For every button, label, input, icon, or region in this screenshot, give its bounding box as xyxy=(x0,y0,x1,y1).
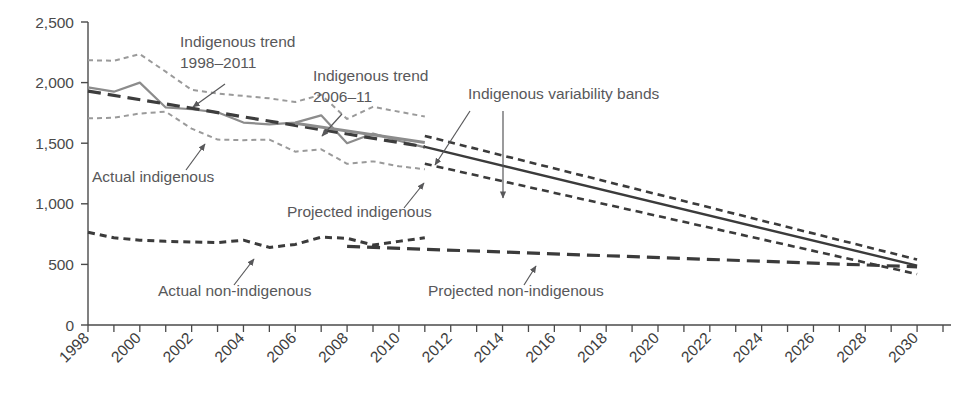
ann-indigenous-variability-bands: Indigenous variability bands xyxy=(468,85,660,102)
x-axis-tick-label: 2004 xyxy=(211,329,248,366)
annotation-label: Indigenous variability bands xyxy=(468,85,660,102)
chart-container: 05001,0001,5002,0002,500 199820002002200… xyxy=(0,0,959,406)
x-axis-ticks xyxy=(88,325,943,332)
ann-projected-indigenous: Projected indigenous xyxy=(287,203,432,220)
x-axis-tick-label: 2022 xyxy=(678,329,714,365)
series-line xyxy=(347,246,917,266)
y-axis-tick-label: 500 xyxy=(48,256,74,273)
annotation-layer: Indigenous trend1998–2011Indigenous tren… xyxy=(92,33,660,299)
x-axis-tick-label: 2000 xyxy=(108,329,145,366)
x-axis-tick-label: 2028 xyxy=(833,329,869,365)
x-axis-tick-label: 2014 xyxy=(470,329,507,366)
ann-indigenous-trend-2006-11: Indigenous trend2006–11 xyxy=(313,67,428,105)
y-axis-tick-labels: 05001,0001,5002,0002,500 xyxy=(35,14,74,334)
y-axis-tick-label: 1,500 xyxy=(35,135,74,152)
y-axis-tick-label: 2,500 xyxy=(35,14,74,31)
x-axis-tick-label: 2030 xyxy=(885,329,922,366)
x-axis-tick-label: 2002 xyxy=(159,329,195,365)
y-axis-tick-label: 1,000 xyxy=(35,195,74,212)
x-axis-tick-label: 2006 xyxy=(263,329,299,365)
x-axis-tick-label: 2016 xyxy=(522,329,558,365)
series-line xyxy=(88,91,425,147)
x-axis-tick-label: 2010 xyxy=(367,329,404,366)
ann-actual-indigenous: Actual indigenous xyxy=(92,168,215,185)
x-axis-tick-label: 2026 xyxy=(781,329,817,365)
annotation-label: Projected non-indigenous xyxy=(428,282,604,299)
annotation-label: Indigenous trend xyxy=(180,33,295,50)
annotation-label: Projected indigenous xyxy=(287,203,432,220)
x-axis-tick-label: 2008 xyxy=(315,329,351,365)
x-axis-tick-label: 2024 xyxy=(729,329,766,366)
y-axis-tick-label: 2,000 xyxy=(35,74,74,91)
line-chart: 05001,0001,5002,0002,500 199820002002200… xyxy=(0,0,959,406)
x-axis-tick-label: 2012 xyxy=(418,329,454,365)
annotation-label: Actual indigenous xyxy=(92,168,215,185)
x-axis-tick-label: 1998 xyxy=(56,329,92,365)
y-axis-tick-label: 0 xyxy=(65,317,74,334)
x-axis-tick-labels: 1998200020022004200620082010201220142016… xyxy=(56,329,922,366)
annotation-label: Indigenous trend xyxy=(313,67,428,84)
ann-indigenous-trend-1998-2011: Indigenous trend1998–2011 xyxy=(180,33,295,71)
series-line xyxy=(295,123,425,142)
annotation-label: 1998–2011 xyxy=(180,54,256,71)
ann-actual-indigenous-leader xyxy=(186,144,205,170)
ann-indigenous-trend-1998-2011-leader xyxy=(193,84,225,107)
series-line xyxy=(88,232,425,247)
x-axis-tick-label: 2018 xyxy=(574,329,610,365)
annotation-label: 2006–11 xyxy=(313,88,372,105)
y-axis-ticks xyxy=(81,22,88,325)
ann-projected-non-indigenous: Projected non-indigenous xyxy=(428,282,604,299)
series-line xyxy=(425,136,917,260)
series-line xyxy=(425,147,917,266)
x-axis-tick-label: 2020 xyxy=(626,329,663,366)
